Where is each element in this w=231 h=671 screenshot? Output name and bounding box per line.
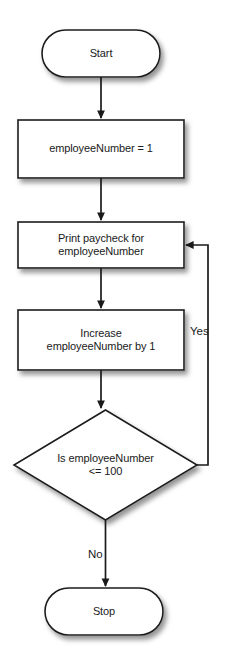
- node-stop-shape: [45, 588, 163, 635]
- node-decision-shape: [14, 410, 197, 520]
- node-start-shape: [42, 30, 160, 77]
- node-print-shape: [18, 222, 184, 268]
- flowchart-canvas: Start employeeNumber = 1 Print paycheck …: [0, 0, 231, 671]
- node-init-shape: [18, 120, 184, 178]
- flowchart-graphics: [0, 0, 231, 671]
- edge-decision-yes-loop: [186, 245, 208, 465]
- node-increase-shape: [18, 310, 184, 370]
